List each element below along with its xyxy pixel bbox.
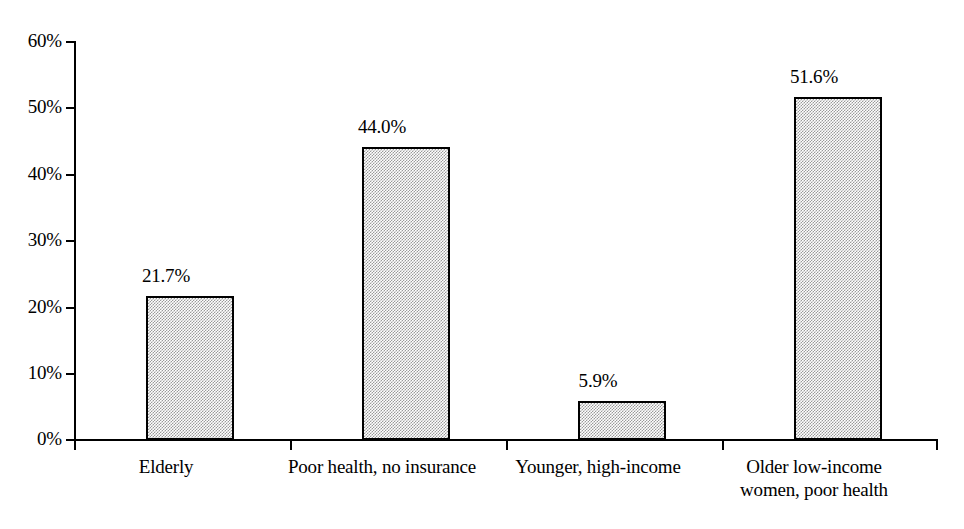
y-tick-label-20: 20%: [4, 296, 62, 318]
y-tick-label-0: 0%: [4, 428, 62, 450]
plot-area: [74, 41, 937, 440]
x-tick-0: [74, 440, 76, 450]
category-label-poor-health-no-insurance: Poor health, no insurance: [272, 455, 492, 478]
x-tick-1: [290, 440, 292, 450]
y-tick-label-10: 10%: [4, 362, 62, 384]
y-tick-label-60: 60%: [4, 30, 62, 52]
bar-elderly[interactable]: [146, 296, 234, 440]
y-tick-label-50: 50%: [4, 96, 62, 118]
category-label-older-low-income-women-poor-health: Older low-income women, poor health: [704, 455, 924, 501]
bar-value-younger-high-income: 5.9%: [538, 370, 658, 392]
bar-value-poor-health-no-insurance: 44.0%: [322, 116, 442, 138]
y-tick-label-40: 40%: [4, 163, 62, 185]
bar-poor-health-no-insurance[interactable]: [362, 147, 450, 440]
x-tick-2: [506, 440, 508, 450]
bar-older-low-income-women-poor-health[interactable]: [794, 97, 882, 440]
bar-value-elderly: 21.7%: [106, 265, 226, 287]
x-tick-3: [722, 440, 724, 450]
bar-chart: 60% 50% 40% 30% 20% 10% 0% 21.7% 44.0% 5…: [0, 0, 964, 529]
category-label-elderly: Elderly: [76, 455, 256, 478]
bar-younger-high-income[interactable]: [578, 401, 666, 440]
bar-value-older-low-income-women-poor-health: 51.6%: [754, 66, 874, 88]
y-tick-label-30: 30%: [4, 229, 62, 251]
x-tick-4: [936, 440, 938, 450]
category-label-younger-high-income: Younger, high-income: [488, 455, 708, 478]
